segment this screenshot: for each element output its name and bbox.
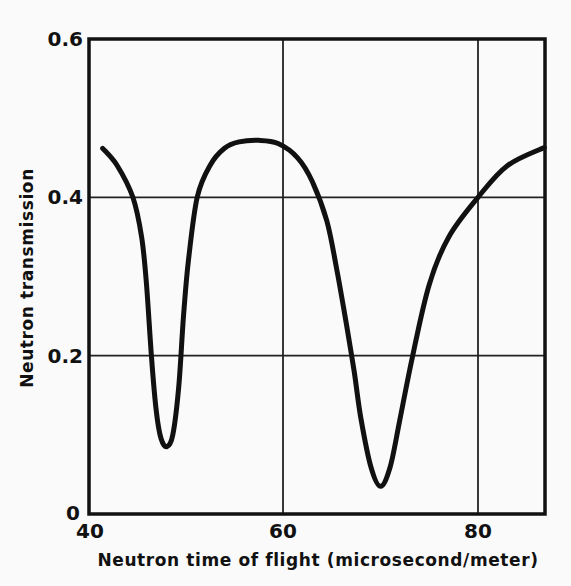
y-axis-ticks: 00.20.40.6 bbox=[48, 27, 83, 525]
x-axis-ticks: 406080 bbox=[76, 519, 492, 543]
y-tick-label: 0.2 bbox=[48, 344, 83, 368]
x-tick-label: 80 bbox=[464, 519, 492, 543]
y-tick-label: 0.6 bbox=[48, 27, 83, 51]
plot-frame bbox=[89, 39, 545, 514]
x-axis-label: Neutron time of flight (microsecond/mete… bbox=[97, 550, 538, 570]
grid-lines bbox=[89, 39, 545, 514]
x-tick-label: 40 bbox=[76, 519, 104, 543]
y-axis-label: Neutron transmission bbox=[17, 168, 37, 388]
y-tick-label: 0 bbox=[66, 501, 80, 525]
y-tick-label: 0.4 bbox=[48, 185, 83, 209]
x-tick-label: 60 bbox=[269, 519, 297, 543]
transmission-chart: 406080 00.20.40.6 Neutron time of flight… bbox=[0, 0, 571, 586]
